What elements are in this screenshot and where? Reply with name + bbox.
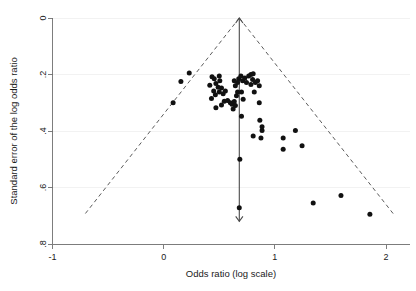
reference-line: [236, 18, 243, 221]
scatter-points: [171, 71, 373, 217]
data-point: [300, 143, 305, 148]
x-tick-label: 0: [161, 252, 166, 262]
data-point: [239, 90, 244, 95]
data-point: [251, 71, 256, 76]
data-point: [171, 100, 176, 105]
data-point: [217, 78, 222, 83]
data-point: [223, 88, 228, 93]
data-point: [260, 128, 265, 133]
x-tick-label: 2: [383, 252, 388, 262]
data-point: [207, 83, 212, 88]
data-point: [248, 82, 253, 87]
data-point: [257, 100, 262, 105]
data-point: [281, 136, 286, 141]
x-tick-label: -1: [48, 252, 56, 262]
data-point: [178, 79, 183, 84]
data-point: [213, 105, 218, 110]
data-point: [232, 78, 237, 83]
data-point: [237, 157, 242, 162]
data-point: [338, 193, 343, 198]
data-point: [367, 212, 372, 217]
y-axis-title: Standard error of the log odds ratio: [8, 57, 19, 204]
y-axis-ticks: 0.2.4.6.8: [38, 15, 52, 247]
data-point: [239, 114, 244, 119]
y-tick-label: .8: [38, 240, 48, 248]
data-point: [241, 97, 246, 102]
data-point: [311, 201, 316, 206]
funnel-right-edge: [239, 18, 395, 216]
data-point: [244, 80, 249, 85]
data-point: [281, 147, 286, 152]
data-point: [217, 73, 222, 78]
data-point: [252, 90, 257, 95]
funnel-plot-canvas: 0.2.4.6.8 -1012 Odds ratio (log scale) S…: [0, 0, 416, 291]
x-axis-ticks: -1012: [48, 245, 388, 263]
data-point: [258, 136, 263, 141]
gridlines: [53, 18, 410, 244]
data-point: [255, 78, 260, 83]
data-point: [209, 96, 214, 101]
y-tick-label: .2: [38, 71, 48, 79]
data-point: [251, 134, 256, 139]
y-tick-label: .6: [38, 184, 48, 192]
funnel-plot-figure: 0.2.4.6.8 -1012 Odds ratio (log scale) S…: [0, 0, 416, 291]
y-tick-label: .4: [38, 127, 48, 135]
data-point: [231, 106, 236, 111]
data-point: [187, 71, 192, 76]
data-point: [257, 83, 262, 88]
x-axis-title: Odds ratio (log scale): [186, 268, 276, 279]
data-point: [212, 76, 217, 81]
y-tick-label: 0: [38, 15, 48, 20]
funnel-left-edge: [84, 18, 240, 216]
data-point: [257, 118, 262, 123]
data-point: [293, 128, 298, 133]
data-point: [237, 205, 242, 210]
x-tick-label: 1: [272, 252, 277, 262]
